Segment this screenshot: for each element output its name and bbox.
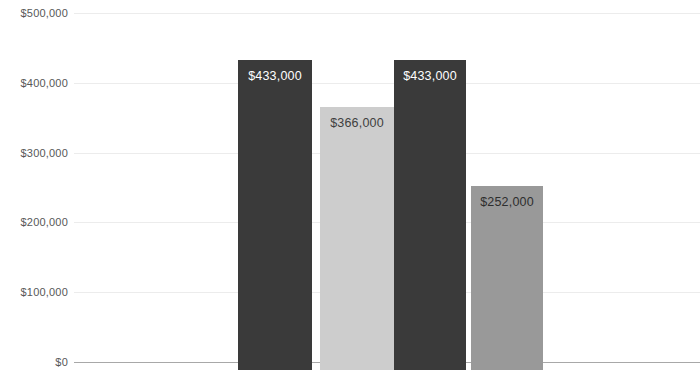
bar-value-label: $433,000 [394,69,466,83]
bars-layer: $433,000$366,000$433,000$252,000 [0,0,700,370]
bar[interactable]: $252,000 [471,186,543,370]
bar[interactable]: $433,000 [394,60,466,370]
bar-value-label: $433,000 [238,69,312,83]
bar-chart: $500,000$400,000$300,000$200,000$100,000… [0,0,700,370]
bar-value-label: $252,000 [471,195,543,209]
bar[interactable]: $366,000 [320,107,394,370]
bar-value-label: $366,000 [320,116,394,130]
bar[interactable]: $433,000 [238,60,312,370]
